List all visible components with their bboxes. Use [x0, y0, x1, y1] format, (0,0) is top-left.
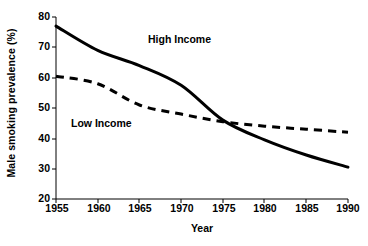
series-line-high-income: [56, 26, 348, 167]
chart-figure: Male smoking prevalence (%) 80 70 60 50 …: [0, 0, 368, 246]
series-label-high-income: High Income: [148, 33, 211, 45]
series-label-low-income: Low Income: [71, 117, 132, 129]
y-axis-ticks: [52, 17, 56, 199]
x-axis-ticks: [56, 199, 348, 203]
